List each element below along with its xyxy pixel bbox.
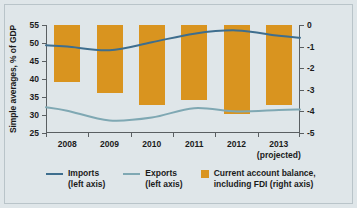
x-tick — [299, 133, 300, 137]
y-tick-label-right: -4 — [307, 107, 315, 116]
line-exports — [46, 107, 300, 120]
y-tick-right — [300, 25, 304, 26]
y-tick-label-left: 35 — [30, 93, 39, 102]
y-tick-label-right: -1 — [307, 42, 315, 51]
y-tick-label-left: 55 — [30, 21, 39, 30]
x-tick-label: 2009 — [100, 139, 119, 150]
chart-figure: Simple averages, % of GDP 55504540353025… — [0, 0, 357, 208]
y-axis-left-title: Simple averages, % of GDP — [6, 20, 20, 138]
legend-line-swatch-icon — [46, 173, 63, 175]
x-tick-label: 2013(projected) — [257, 139, 301, 160]
x-tick-label: 2010 — [142, 139, 161, 150]
legend-item[interactable]: Exports(left axis) — [123, 168, 182, 189]
x-tick-sublabel: (projected) — [257, 150, 301, 161]
x-tick-label: 2012 — [227, 139, 246, 150]
y-tick-label-right: -5 — [307, 129, 315, 138]
y-tick-label-left: 30 — [30, 111, 39, 120]
legend-label: Imports(left axis) — [68, 168, 105, 189]
legend-label: Exports(left axis) — [145, 168, 182, 189]
x-tick-label: 2011 — [185, 139, 203, 150]
x-tick-label: 2008 — [58, 139, 77, 150]
y-tick-label-right: -2 — [307, 64, 315, 73]
y-tick-label-left: 25 — [30, 129, 39, 138]
x-tick — [131, 133, 132, 137]
legend-label: Current account balance,including FDI (r… — [214, 168, 316, 189]
legend-sublabel: (left axis) — [145, 179, 182, 190]
x-tick — [173, 133, 174, 137]
legend-item[interactable]: Imports(left axis) — [46, 168, 105, 189]
legend-item[interactable]: Current account balance,including FDI (r… — [201, 168, 316, 189]
y-tick-right — [300, 133, 304, 134]
y-tick-label-left: 45 — [30, 57, 39, 66]
legend-sublabel: including FDI (right axis) — [214, 179, 316, 190]
y-tick-label-right: 0 — [307, 21, 312, 30]
line-imports — [46, 30, 300, 50]
line-series-group — [46, 25, 300, 133]
x-tick — [215, 133, 216, 137]
legend-sublabel: (left axis) — [68, 179, 105, 190]
x-tick — [88, 133, 89, 137]
y-tick-right — [300, 68, 304, 69]
y-tick-label-left: 50 — [30, 39, 39, 48]
legend-box-swatch-icon — [201, 170, 209, 178]
y-tick-right — [300, 90, 304, 91]
x-tick — [46, 133, 47, 137]
plot-area: 55504540353025 0-1-2-3-4-5 2008200920102… — [46, 25, 300, 133]
legend-line-swatch-icon — [123, 173, 140, 175]
y-tick-right — [300, 47, 304, 48]
x-tick — [258, 133, 259, 137]
y-tick-label-right: -3 — [307, 86, 315, 95]
y-tick-label-left: 40 — [30, 75, 39, 84]
y-tick-right — [300, 111, 304, 112]
chart-legend: Imports(left axis)Exports(left axis)Curr… — [46, 168, 336, 198]
